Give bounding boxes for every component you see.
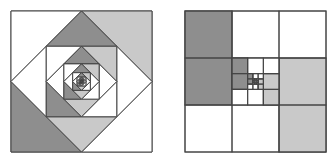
figure-canvas: [0, 0, 336, 164]
grid-cell: [255, 81, 257, 83]
nested-rotated-squares-figure: [11, 11, 152, 152]
recursive-grid-figure: [185, 11, 326, 152]
